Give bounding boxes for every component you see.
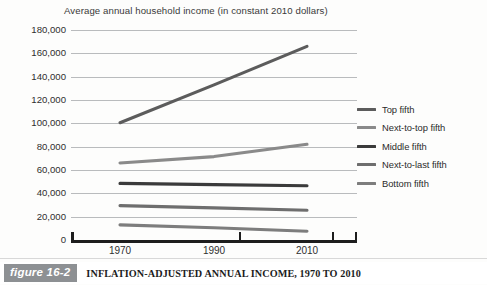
legend-label-top-fifth: Top fifth bbox=[382, 104, 414, 115]
y-tick-label-160000: 160,000 bbox=[8, 47, 66, 58]
legend-swatch-next-to-top-fifth bbox=[357, 126, 376, 129]
legend-item-next-to-top-fifth[interactable]: Next-to-top fifth bbox=[357, 119, 485, 138]
y-tick-label-140000: 140,000 bbox=[8, 71, 66, 82]
series-line-top-fifth bbox=[120, 46, 307, 122]
figure-number-badge: figure 16-2 bbox=[4, 264, 77, 282]
series-lines bbox=[71, 30, 357, 240]
series-line-bottom-fifth bbox=[120, 225, 307, 231]
plot-area bbox=[71, 30, 357, 240]
caption-title: INFLATION-ADJUSTED ANNUAL INCOME, 1970 T… bbox=[86, 268, 361, 279]
y-tick-label-80000: 80,000 bbox=[8, 141, 66, 152]
chart-legend: Top fifthNext-to-top fifthMiddle fifthNe… bbox=[357, 100, 485, 193]
legend-item-middle-fifth[interactable]: Middle fifth bbox=[357, 137, 485, 156]
chart-title: Average annual household income (in cons… bbox=[64, 5, 328, 16]
y-tick-label-60000: 60,000 bbox=[8, 164, 66, 175]
legend-label-bottom-fifth: Bottom fifth bbox=[382, 178, 429, 189]
series-line-next-to-top-fifth bbox=[120, 144, 307, 163]
legend-swatch-bottom-fifth bbox=[357, 182, 376, 185]
legend-swatch-middle-fifth bbox=[357, 145, 376, 148]
legend-item-bottom-fifth[interactable]: Bottom fifth bbox=[357, 174, 485, 193]
figure-16-2: Average annual household income (in cons… bbox=[0, 0, 487, 285]
y-tick-label-0: 0 bbox=[8, 234, 66, 245]
legend-label-next-to-last-fifth: Next-to-last fifth bbox=[382, 159, 447, 170]
legend-swatch-next-to-last-fifth bbox=[357, 163, 376, 166]
legend-label-next-to-top-fifth: Next-to-top fifth bbox=[382, 122, 445, 133]
series-line-middle-fifth bbox=[120, 183, 307, 185]
legend-swatch-top-fifth bbox=[357, 108, 376, 111]
x-tick-label-1970: 1970 bbox=[90, 245, 150, 256]
y-axis-origin-tick bbox=[71, 232, 74, 242]
y-tick-label-100000: 100,000 bbox=[8, 117, 66, 128]
x-tick-mark-1990 bbox=[239, 232, 241, 241]
legend-item-top-fifth[interactable]: Top fifth bbox=[357, 100, 485, 119]
x-axis-line bbox=[71, 240, 357, 243]
x-axis-end-tick bbox=[355, 232, 357, 241]
caption-divider bbox=[0, 258, 487, 259]
y-tick-label-20000: 20,000 bbox=[8, 211, 66, 222]
y-tick-label-120000: 120,000 bbox=[8, 94, 66, 105]
series-line-next-to-last-fifth bbox=[120, 206, 307, 211]
y-tick-label-40000: 40,000 bbox=[8, 187, 66, 198]
x-tick-mark-2010 bbox=[332, 232, 334, 241]
legend-label-middle-fifth: Middle fifth bbox=[382, 141, 427, 152]
y-axis-labels: 020,00040,00060,00080,000100,000120,0001… bbox=[4, 0, 66, 285]
x-tick-label-1990: 1990 bbox=[184, 245, 244, 256]
caption-bar: figure 16-2 INFLATION-ADJUSTED ANNUAL IN… bbox=[0, 262, 487, 284]
legend-item-next-to-last-fifth[interactable]: Next-to-last fifth bbox=[357, 156, 485, 175]
y-tick-label-180000: 180,000 bbox=[8, 24, 66, 35]
x-tick-label-2010: 2010 bbox=[277, 245, 337, 256]
